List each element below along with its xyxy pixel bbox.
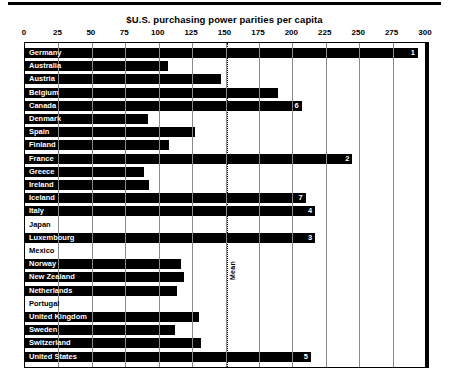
x-tick-label-100: 100 bbox=[151, 28, 164, 37]
bar-category-label: Sweden bbox=[29, 325, 57, 335]
x-tick-label-275: 275 bbox=[385, 28, 398, 37]
bar-category-label: Iceland bbox=[29, 193, 55, 203]
gridline-100 bbox=[159, 43, 160, 367]
bar-rank-label: 5 bbox=[304, 352, 311, 362]
x-tick-label-300: 300 bbox=[418, 28, 431, 37]
bar[interactable] bbox=[25, 206, 315, 216]
bar-rank-label: 2 bbox=[345, 154, 352, 164]
bar-rank-label: 4 bbox=[308, 206, 315, 216]
gridline-175 bbox=[259, 43, 260, 367]
bar-category-label: United States bbox=[29, 352, 77, 362]
bar-rank-label: 1 bbox=[411, 48, 418, 58]
chart-title: $U.S. purchasing power parities per capi… bbox=[0, 14, 449, 25]
x-tick-label-175: 175 bbox=[251, 28, 264, 37]
bar-category-label: Austria bbox=[29, 74, 55, 84]
bar-category-label: Mexico bbox=[29, 246, 54, 256]
bar-category-label: Switzerland bbox=[29, 338, 71, 348]
gridline-225 bbox=[326, 43, 327, 367]
bar[interactable] bbox=[25, 193, 306, 203]
bar[interactable] bbox=[25, 154, 352, 164]
bar[interactable] bbox=[25, 127, 195, 137]
bar-category-label: Canada bbox=[29, 101, 56, 111]
gridline-275 bbox=[393, 43, 394, 367]
x-tick-label-25: 25 bbox=[53, 28, 62, 37]
chart-root: $U.S. purchasing power parities per capi… bbox=[0, 0, 449, 386]
x-tick-label-150: 150 bbox=[218, 28, 231, 37]
x-axis-tick-labels: 0255075100125150175200225250275300 bbox=[0, 28, 449, 40]
mean-line-label: Mean bbox=[229, 261, 236, 280]
plot-area: Germany1AustraliaAustriaBelgiumCanada6De… bbox=[24, 42, 425, 368]
bar-category-label: United Kingdom bbox=[29, 312, 87, 322]
x-tick-label-200: 200 bbox=[285, 28, 298, 37]
x-tick-label-50: 50 bbox=[86, 28, 95, 37]
bar[interactable] bbox=[25, 101, 302, 111]
x-tick-label-250: 250 bbox=[351, 28, 364, 37]
bar-rank-label: 3 bbox=[308, 233, 315, 243]
gridline-200 bbox=[292, 43, 293, 367]
x-tick-label-225: 225 bbox=[318, 28, 331, 37]
plot-right-border bbox=[425, 42, 429, 368]
bar-category-label: Luxembourg bbox=[29, 233, 74, 243]
top-rule-divider bbox=[8, 2, 441, 5]
bar-category-label: Australia bbox=[29, 61, 61, 71]
bar-category-label: France bbox=[29, 154, 54, 164]
mean-line bbox=[227, 43, 228, 367]
bar[interactable] bbox=[25, 88, 278, 98]
bar-category-label: Italy bbox=[29, 206, 44, 216]
bar-category-label: Ireland bbox=[29, 180, 54, 190]
bar-category-label: Finland bbox=[29, 140, 56, 150]
gridline-125 bbox=[192, 43, 193, 367]
bar-category-label: New Zealand bbox=[29, 272, 75, 282]
gridline-50 bbox=[92, 43, 93, 367]
bar-category-label: Japan bbox=[29, 220, 51, 230]
bar-category-label: Portugal bbox=[29, 299, 59, 309]
gridline-250 bbox=[359, 43, 360, 367]
bar-category-label: Germany bbox=[29, 48, 62, 58]
x-tick-label-125: 125 bbox=[184, 28, 197, 37]
x-tick-label-0: 0 bbox=[22, 28, 26, 37]
bar-category-label: Norway bbox=[29, 259, 56, 269]
bar-category-label: Denmark bbox=[29, 114, 61, 124]
bar-category-label: Netherlands bbox=[29, 286, 72, 296]
x-tick-label-75: 75 bbox=[120, 28, 129, 37]
bar-rank-label: 7 bbox=[299, 193, 306, 203]
bar-category-label: Greece bbox=[29, 167, 54, 177]
bar-category-label: Belgium bbox=[29, 88, 59, 98]
gridline-75 bbox=[125, 43, 126, 367]
bar-category-label: Spain bbox=[29, 127, 49, 137]
bar-rank-label: 6 bbox=[295, 101, 302, 111]
